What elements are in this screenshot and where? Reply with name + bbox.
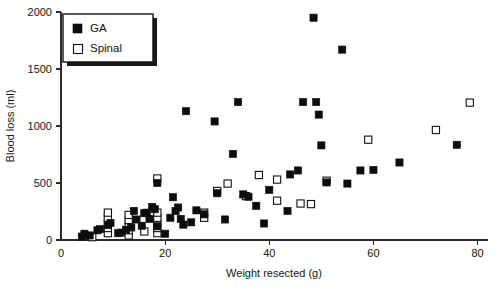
data-point-spinal	[255, 171, 262, 178]
data-point-ga	[396, 159, 403, 166]
data-point-ga	[313, 98, 320, 105]
data-point-ga	[146, 215, 153, 222]
x-axis-ticks: 020406080	[58, 240, 484, 259]
data-point-ga	[151, 206, 158, 213]
data-point-ga	[86, 232, 93, 239]
y-tick-label: 500	[34, 177, 52, 189]
data-point-spinal	[224, 180, 231, 187]
data-point-ga	[344, 180, 351, 187]
data-point-spinal	[466, 99, 473, 106]
data-point-ga	[193, 207, 200, 214]
legend-box	[63, 14, 153, 62]
data-point-ga	[162, 230, 169, 237]
y-axis-ticks: 0500100015002000	[28, 6, 61, 246]
chart-figure: 0500100015002000 020406080 Blood loss (m…	[0, 0, 496, 290]
data-point-ga	[260, 220, 267, 227]
data-point-ga	[138, 222, 145, 229]
data-point-ga	[188, 219, 195, 226]
data-point-ga	[180, 221, 187, 228]
data-point-ga	[169, 194, 176, 201]
legend-marker-spinal	[74, 45, 83, 54]
x-tick-label: 0	[58, 247, 64, 259]
data-point-spinal	[274, 176, 281, 183]
data-point-ga	[214, 190, 221, 197]
data-point-ga	[310, 14, 317, 21]
data-point-ga	[96, 226, 103, 233]
data-point-ga	[453, 141, 460, 148]
data-point-spinal	[104, 209, 111, 216]
data-point-ga	[266, 186, 273, 193]
data-point-ga	[130, 207, 137, 214]
y-tick-label: 1000	[28, 120, 52, 132]
data-point-spinal	[432, 126, 439, 133]
data-point-ga	[253, 202, 260, 209]
data-point-ga	[323, 179, 330, 186]
data-point-ga	[315, 111, 322, 118]
legend-marker-ga	[73, 24, 82, 33]
data-point-ga	[300, 98, 307, 105]
data-point-ga	[339, 46, 346, 53]
chart-legend: GA Spinal	[63, 14, 157, 66]
data-point-spinal	[274, 197, 281, 204]
data-point-spinal	[365, 136, 372, 143]
data-point-ga	[201, 211, 208, 218]
y-axis-title: Blood loss (ml)	[4, 90, 16, 163]
x-tick-label: 20	[159, 247, 171, 259]
data-point-ga	[175, 204, 182, 211]
data-point-ga	[154, 179, 161, 186]
y-tick-label: 1500	[28, 63, 52, 75]
y-tick-label: 2000	[28, 6, 52, 18]
y-tick-label: 0	[46, 234, 52, 246]
data-point-ga	[154, 223, 161, 230]
data-point-ga	[357, 167, 364, 174]
data-point-ga	[234, 98, 241, 105]
x-tick-label: 80	[471, 247, 483, 259]
x-tick-label: 40	[263, 247, 275, 259]
data-point-spinal	[297, 200, 304, 207]
data-point-ga	[128, 224, 135, 231]
data-point-ga	[245, 193, 252, 200]
scatter-plot: 0500100015002000 020406080 Blood loss (m…	[0, 0, 496, 290]
data-point-ga	[182, 108, 189, 115]
data-point-ga	[284, 207, 291, 214]
data-point-ga	[229, 150, 236, 157]
data-point-ga	[221, 216, 228, 223]
data-point-ga	[167, 214, 174, 221]
data-point-ga	[211, 118, 218, 125]
data-point-ga	[107, 219, 114, 226]
data-point-ga	[370, 166, 377, 173]
data-point-ga	[318, 142, 325, 149]
x-axis-title: Weight resected (g)	[226, 267, 322, 279]
legend-label-spinal: Spinal	[90, 42, 122, 54]
legend-label-ga: GA	[90, 22, 107, 34]
x-tick-label: 60	[367, 247, 379, 259]
data-point-spinal	[307, 200, 314, 207]
data-point-ga	[287, 171, 294, 178]
data-point-ga	[294, 167, 301, 174]
